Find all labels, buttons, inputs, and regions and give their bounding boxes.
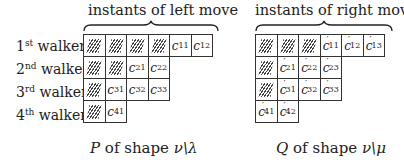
entry-base: c — [172, 39, 179, 53]
entry-subscript: 12 — [200, 41, 210, 50]
tableau-entry-cell: c′12 — [341, 34, 364, 57]
hatched-cell — [298, 34, 321, 57]
hatched-cell — [83, 100, 106, 123]
entry-prime: ′ — [284, 57, 286, 67]
entry-subscript: 21 — [136, 63, 146, 72]
right-brace-icon — [255, 20, 393, 32]
tableau-entry-cell: c′22 — [298, 56, 321, 79]
entry-subscript: 42 — [286, 107, 296, 116]
hatched-cell — [83, 34, 106, 57]
hatched-cell — [126, 34, 149, 57]
hatched-cell — [255, 34, 278, 57]
hatched-cell — [105, 56, 128, 79]
entry-prime: ′ — [348, 35, 350, 45]
tableau-entry-cell: c′42 — [277, 100, 300, 123]
caption-q: Q of shape ν\μ — [276, 139, 386, 157]
tableau-entry-cell: c′32 — [298, 78, 321, 101]
hatch-icon — [87, 83, 102, 97]
entry-prime: ′ — [327, 57, 329, 67]
hatched-cell — [83, 78, 106, 101]
tableau-entry-cell: c12 — [191, 34, 214, 57]
entry-subscript: 31 — [286, 85, 296, 94]
tableau-entry-cell: c31 — [105, 78, 128, 101]
tableau-entry-cell: c′11 — [320, 34, 343, 57]
caption-p: P of shape ν\λ — [90, 139, 197, 157]
hatch-icon — [108, 61, 123, 75]
tableau-entry-cell: c33 — [148, 78, 171, 101]
entry-prime: ′ — [284, 79, 286, 89]
entry-base: c — [107, 83, 114, 97]
entry-prime: ′ — [370, 35, 372, 45]
tableau-entry-cell: c′33 — [320, 78, 343, 101]
hatched-cell — [277, 34, 300, 57]
hatched-cell — [148, 34, 171, 57]
row-label-walker-2: 2nd walker — [16, 61, 89, 77]
entry-subscript: 12 — [350, 41, 360, 50]
hatch-icon — [259, 39, 274, 53]
entry-subscript: 11 — [179, 41, 189, 50]
entry-base: c — [150, 61, 157, 75]
entry-base: c — [193, 39, 200, 53]
row-label-walker-3: 3rd walker — [16, 84, 88, 100]
hatch-icon — [130, 39, 145, 53]
hatched-cell — [255, 56, 278, 79]
tableau-entry-cell: c′23 — [320, 56, 343, 79]
tableau-entry-cell: c′41 — [255, 100, 278, 123]
hatch-icon — [87, 39, 102, 53]
entry-prime: ′ — [262, 101, 264, 111]
row-label-walker-1: 1st walker — [16, 38, 86, 54]
right-header: instants of right move — [255, 2, 393, 18]
hatched-cell — [83, 56, 106, 79]
row-label-walker-4: 4th walker — [16, 107, 87, 123]
entry-base: c — [107, 105, 114, 119]
entry-prime: ′ — [305, 57, 307, 67]
entry-subscript: 33 — [157, 85, 167, 94]
tableau-entry-cell: c′13 — [363, 34, 386, 57]
entry-prime: ′ — [327, 35, 329, 45]
entry-prime: ′ — [284, 101, 286, 111]
entry-prime: ′ — [327, 79, 329, 89]
entry-subscript: 22 — [307, 63, 317, 72]
entry-subscript: 31 — [114, 85, 124, 94]
left-brace-icon — [83, 20, 219, 32]
hatch-icon — [87, 61, 102, 75]
entry-subscript: 32 — [307, 85, 317, 94]
entry-subscript: 13 — [372, 41, 382, 50]
entry-subscript: 41 — [114, 107, 124, 116]
entry-subscript: 21 — [286, 63, 296, 72]
hatch-icon — [151, 39, 166, 53]
entry-prime: ′ — [305, 79, 307, 89]
tableau-entry-cell: c′31 — [277, 78, 300, 101]
hatched-cell — [255, 78, 278, 101]
hatch-icon — [302, 39, 317, 53]
entry-base: c — [129, 61, 136, 75]
tableau-entry-cell: c21 — [126, 56, 149, 79]
hatch-icon — [259, 61, 274, 75]
hatched-cell — [105, 34, 128, 57]
tableau-entry-cell: c41 — [105, 100, 128, 123]
left-header: instants of left move — [88, 2, 218, 18]
entry-subscript: 32 — [136, 85, 146, 94]
entry-base: c — [129, 83, 136, 97]
entry-base: c — [150, 83, 157, 97]
hatch-icon — [87, 105, 102, 119]
hatch-icon — [108, 39, 123, 53]
entry-subscript: 41 — [264, 107, 274, 116]
entry-subscript: 23 — [329, 63, 339, 72]
tableau-entry-cell: c11 — [169, 34, 192, 57]
entry-subscript: 11 — [329, 41, 339, 50]
tableau-entry-cell: c22 — [148, 56, 171, 79]
hatch-icon — [259, 83, 274, 97]
entry-subscript: 33 — [329, 85, 339, 94]
hatch-icon — [280, 39, 295, 53]
tableau-entry-cell: c32 — [126, 78, 149, 101]
entry-subscript: 22 — [157, 63, 167, 72]
tableau-entry-cell: c′21 — [277, 56, 300, 79]
